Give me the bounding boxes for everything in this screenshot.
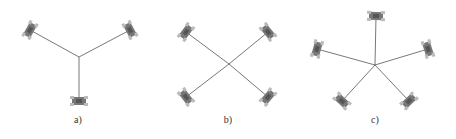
panel-b <box>177 22 278 107</box>
link-line <box>375 49 428 65</box>
link-line <box>186 32 229 64</box>
panel-c-label: c) <box>371 114 379 125</box>
robot-icon <box>177 87 196 107</box>
panel-b-label: b) <box>224 114 232 125</box>
robot-icon <box>70 96 88 106</box>
robot-icon <box>121 20 138 41</box>
robot-icon <box>177 22 196 42</box>
link-line <box>317 49 375 65</box>
robot-icon <box>367 11 385 21</box>
robot-icon <box>21 20 38 41</box>
link-line <box>30 30 79 57</box>
robot-icon <box>310 39 324 59</box>
robot-icon <box>421 39 436 59</box>
panel-a <box>21 20 138 106</box>
link-line <box>342 65 375 101</box>
link-line <box>186 64 229 97</box>
robot-icon <box>258 22 277 42</box>
panel-c <box>310 11 436 111</box>
link-line <box>375 16 376 65</box>
robot-icon <box>332 91 352 111</box>
link-line <box>79 30 130 57</box>
robot-icon <box>258 87 277 107</box>
link-line <box>229 32 268 64</box>
link-line <box>375 65 409 101</box>
link-line <box>229 64 268 97</box>
panel-a-label: a) <box>74 114 82 125</box>
